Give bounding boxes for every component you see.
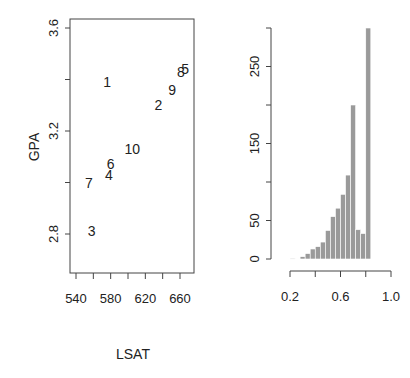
x-tick-label: 660 — [169, 291, 191, 306]
y-tick-label: 0 — [247, 255, 262, 262]
histogram-y-axis: 050150250 — [247, 28, 271, 263]
y-tick-label: 3.2 — [46, 122, 61, 140]
scatter-plot: 2.83.23.6 540580620660 12345678910 GPA L… — [0, 0, 205, 378]
histogram-bar — [305, 254, 310, 259]
data-point-label: 8 — [177, 64, 185, 80]
x-tick-label: 540 — [65, 291, 87, 306]
x-tick-label: 0.2 — [281, 289, 299, 304]
histogram-bars — [290, 28, 371, 259]
data-point-label: 2 — [154, 97, 162, 113]
histogram-bar — [310, 249, 315, 259]
histogram-bar — [320, 242, 325, 259]
histogram-bar — [330, 217, 335, 259]
histogram-bar — [341, 194, 346, 259]
y-tick-label: 2.8 — [46, 225, 61, 243]
data-point-label: 3 — [88, 223, 96, 239]
histogram-bar — [290, 258, 295, 259]
x-tick-label: 0.6 — [331, 289, 349, 304]
histogram-bar — [366, 28, 371, 259]
histogram-bar — [346, 175, 351, 259]
histogram-bar — [335, 208, 340, 259]
scatter-points: 12345678910 — [85, 61, 189, 239]
y-tick-label: 3.6 — [46, 19, 61, 37]
histogram-bar — [356, 230, 361, 259]
histogram-bar — [325, 231, 330, 259]
histogram-bar — [315, 247, 320, 259]
data-point-label: 6 — [107, 156, 115, 172]
data-point-label: 10 — [125, 141, 141, 157]
data-point-label: 9 — [168, 82, 176, 98]
data-point-label: 7 — [85, 175, 93, 191]
data-point-label: 1 — [103, 74, 111, 90]
histogram-bar — [351, 105, 356, 259]
scatter-x-axis: 540580620660 — [65, 273, 191, 306]
x-tick-label: 580 — [100, 291, 122, 306]
y-tick-label: 50 — [247, 213, 262, 227]
scatter-y-axis: 2.83.23.6 — [46, 19, 70, 243]
x-tick-label: 1.0 — [382, 289, 400, 304]
y-tick-label: 250 — [247, 56, 262, 78]
histogram-x-axis: 0.20.61.0 — [281, 271, 400, 304]
y-axis-title: GPA — [26, 132, 42, 161]
histogram-bar — [300, 257, 305, 259]
x-axis-title: LSAT — [116, 346, 150, 362]
y-tick-label: 150 — [247, 133, 262, 155]
x-tick-label: 620 — [134, 291, 156, 306]
histogram-bar — [361, 234, 366, 259]
